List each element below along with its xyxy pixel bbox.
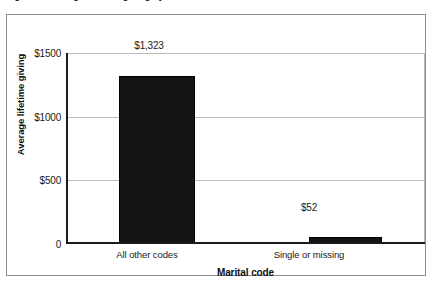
- y-tick-label-1000: $1000: [34, 111, 61, 122]
- y-tick-label-1500: $1500: [34, 48, 61, 59]
- plot-right-edge: [424, 53, 425, 244]
- x-category-label-single-or-missing: Single or missing: [249, 249, 369, 260]
- figure-caption-remnant: Figure 5. Average lifetime giving by mar…: [6, 0, 306, 3]
- bar-value-label-single-or-missing: $52: [259, 202, 359, 213]
- y-axis-tick-labels: $1500 $1000 $500 0: [7, 53, 61, 244]
- gridline-1500: [66, 53, 425, 54]
- x-category-label-all-other-codes: All other codes: [87, 249, 207, 260]
- x-axis-line: [66, 242, 425, 244]
- y-tick-label-500: $500: [40, 175, 61, 186]
- bar-value-label-all-other-codes: $1,323: [99, 40, 199, 51]
- y-axis-line: [66, 53, 68, 244]
- y-tick-label-0: 0: [56, 239, 61, 250]
- plot-area: [66, 53, 425, 244]
- figure-frame: Average lifetime giving $1500 $1000 $500…: [6, 14, 426, 276]
- x-axis-title: Marital code: [66, 267, 425, 278]
- bar-all-other-codes[interactable]: [119, 76, 195, 244]
